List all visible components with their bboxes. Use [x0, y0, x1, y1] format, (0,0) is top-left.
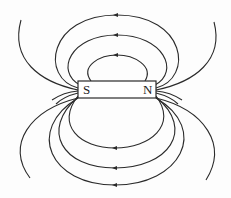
arrow-top-3 — [113, 13, 118, 17]
field-line-top-2 — [68, 35, 167, 85]
field-line-top-4-right — [156, 22, 216, 90]
field-line-bottom-1 — [69, 96, 164, 148]
field-line-top-1 — [88, 55, 147, 81]
arrow-bottom-1 — [112, 146, 117, 150]
arrow-bottom-3 — [112, 183, 117, 187]
field-line-bottom-4-right — [156, 98, 214, 180]
magnetic-field-diagram: S N — [0, 0, 231, 198]
south-pole-label: S — [83, 82, 90, 97]
arrow-top-1 — [113, 53, 118, 57]
north-pole-label: N — [143, 82, 153, 97]
arrow-bottom-2 — [112, 166, 117, 170]
bar-magnet: S N — [78, 81, 156, 98]
arrow-top-2 — [113, 33, 118, 37]
field-lines-svg: S N — [0, 0, 231, 198]
